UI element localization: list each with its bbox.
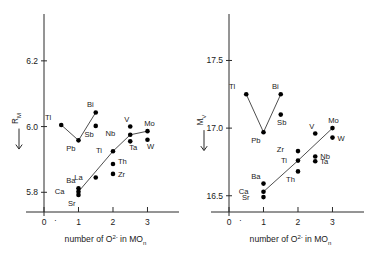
data-point <box>111 162 116 167</box>
y-tick-label: 5.8 <box>26 187 38 197</box>
data-point-label: Pb <box>251 136 260 145</box>
x-tick-label: 2 <box>111 217 116 227</box>
data-point <box>296 158 301 163</box>
data-point <box>93 175 98 180</box>
x-axis-title: number of O2- in MOn <box>65 234 147 247</box>
data-point <box>278 92 283 97</box>
data-point-label: Bi <box>87 100 94 109</box>
x-tick-label: 0 <box>42 217 47 227</box>
data-point-label: Ta <box>129 143 138 152</box>
x-tick-label: 2 <box>296 217 301 227</box>
y-tick-label: 16.5 <box>206 191 223 201</box>
data-point-label: Ba <box>251 172 261 181</box>
chart-panel-left: 5.86.06.20123·TlPbSbBiBaCaSrLaTiThZrVNbT… <box>0 0 184 270</box>
data-point-label: Pb <box>66 144 75 153</box>
data-point-label: Th <box>118 157 127 166</box>
data-point <box>111 172 116 177</box>
data-point-label: Th <box>286 175 295 184</box>
x-tick-label: 3 <box>330 217 335 227</box>
figure-container: 5.86.06.20123·TlPbSbBiBaCaSrLaTiThZrVNbT… <box>0 0 369 270</box>
chart-panel-right: 16.517.017.50123·TlPbBiSbBaCaSrZrTiThVNb… <box>185 0 369 270</box>
data-point <box>296 169 301 174</box>
axis-break-mark: · <box>54 215 57 225</box>
data-point <box>128 132 133 137</box>
data-point-label: Ti <box>96 146 102 155</box>
data-point-label: Sr <box>242 193 250 202</box>
data-point <box>313 131 318 136</box>
data-point <box>296 149 301 154</box>
scatter-plot-left: 5.86.06.20123·TlPbSbBiBaCaSrLaTiThZrVNbT… <box>0 0 184 270</box>
data-point <box>93 110 98 115</box>
x-axis-title: number of O2- in MOn <box>250 234 332 247</box>
data-point-label: V <box>309 122 315 131</box>
data-point-label: La <box>74 173 83 182</box>
data-point-label: W <box>337 134 345 143</box>
data-point-label: Ta <box>320 157 329 166</box>
y-axis-arrow-icon <box>16 129 22 150</box>
data-point <box>330 135 335 140</box>
x-tick-label: 1 <box>76 217 81 227</box>
data-point <box>76 193 81 198</box>
data-point <box>330 126 335 131</box>
y-axis-title: RM <box>11 113 22 124</box>
data-point <box>313 154 318 159</box>
x-tick-label: 3 <box>145 217 150 227</box>
data-point-label: Tl <box>229 82 236 91</box>
y-tick-label: 17.0 <box>206 123 223 133</box>
y-tick-label: 6.2 <box>26 56 38 66</box>
data-point <box>261 130 266 135</box>
data-point-label: Ti <box>281 156 287 165</box>
data-point <box>278 112 283 117</box>
data-point-label: Sb <box>84 130 93 139</box>
data-point-label: Mo <box>328 116 339 125</box>
data-point <box>76 138 81 143</box>
x-tick-label: 1 <box>261 217 266 227</box>
data-point-label: Mo <box>144 119 155 128</box>
data-point-label: Tl <box>45 113 52 122</box>
data-point <box>313 159 318 164</box>
data-point <box>59 123 64 128</box>
data-point <box>261 195 266 200</box>
data-point-label: Sb <box>277 118 286 127</box>
data-point <box>111 149 116 154</box>
data-point <box>93 124 98 129</box>
scatter-plot-right: 16.517.017.50123·TlPbBiSbBaCaSrZrTiThVNb… <box>185 0 369 270</box>
data-point-label: Nb <box>106 129 116 138</box>
data-point-label: V <box>124 115 130 124</box>
data-point <box>145 129 150 134</box>
y-axis-title: MV <box>196 115 207 126</box>
axis-break-mark: · <box>239 215 242 225</box>
data-point-label: Ca <box>55 187 65 196</box>
data-point <box>244 92 249 97</box>
data-point-label: Bi <box>272 82 279 91</box>
data-point-label: W <box>147 142 155 151</box>
y-tick-label: 17.5 <box>206 55 223 65</box>
data-point <box>261 189 266 194</box>
data-point-label: Sr <box>68 199 76 208</box>
y-axis-arrow-icon <box>201 130 207 151</box>
trend-line-main-trend <box>78 131 147 191</box>
x-tick-label: 0 <box>227 217 232 227</box>
y-tick-label: 6.0 <box>26 122 38 132</box>
data-point <box>261 181 266 186</box>
trend-line-tl-pb-bi <box>246 94 280 132</box>
data-point-label: Zr <box>277 145 285 154</box>
data-point <box>128 124 133 129</box>
data-point-label: Zr <box>118 170 126 179</box>
